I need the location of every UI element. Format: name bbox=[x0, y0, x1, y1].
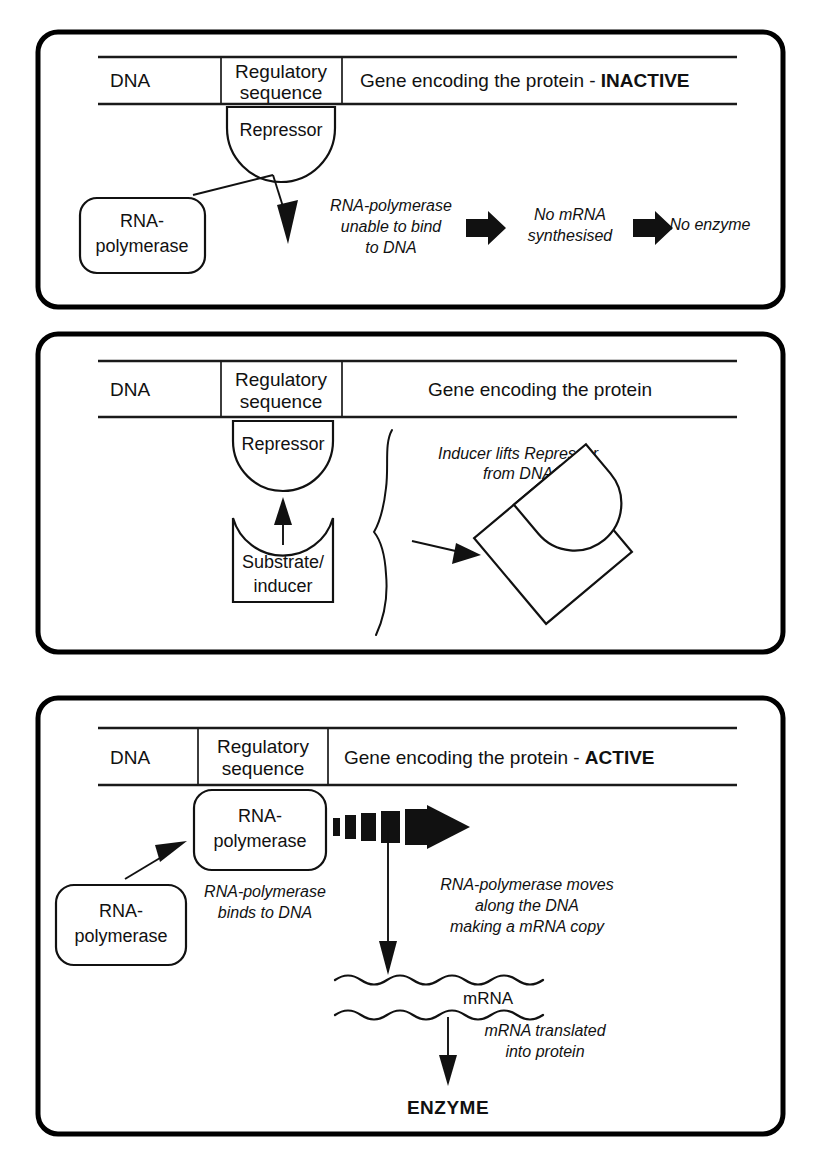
dna-segment-label: DNA bbox=[110, 70, 150, 91]
gene-segment-label-2: Gene encoding the protein bbox=[428, 379, 652, 400]
gene-segment-text-3: Gene encoding the protein - bbox=[344, 747, 585, 768]
panel-active: DNA Regulatory sequence Gene encoding th… bbox=[38, 698, 783, 1134]
regulatory-sequence-label-line2: sequence bbox=[240, 82, 322, 103]
gene-segment-label-3: Gene encoding the protein - ACTIVE bbox=[344, 747, 655, 768]
rna-polymerase-label-line1: RNA- bbox=[120, 211, 164, 231]
flow-note-line3: to DNA bbox=[365, 239, 417, 256]
repressor-label: Repressor bbox=[239, 120, 322, 140]
rna-polymerase-bound-box: RNA- polymerase bbox=[194, 790, 326, 870]
moves-note-line1: RNA-polymerase moves bbox=[440, 876, 613, 893]
enzyme-product-label: ENZYME bbox=[407, 1097, 489, 1118]
rna-polymerase-bound-rect bbox=[194, 790, 326, 870]
gene-regulation-diagram: DNA Regulatory sequence Gene encoding th… bbox=[0, 0, 817, 1165]
regulatory-sequence-label-3-line2: sequence bbox=[222, 758, 304, 779]
substrate-inducer-label-line2: inducer bbox=[253, 576, 312, 596]
translation-note-line2: into protein bbox=[505, 1043, 584, 1060]
dna-segment-label-2: DNA bbox=[110, 379, 150, 400]
rna-polymerase-box-inactive: RNA- polymerase bbox=[80, 198, 205, 273]
rna-polymerase-label-line2: polymerase bbox=[95, 236, 188, 256]
regulatory-sequence-label-line1: Regulatory bbox=[235, 61, 327, 82]
gene-state-emphasis-3: ACTIVE bbox=[585, 747, 655, 768]
dna-segment-label-3: DNA bbox=[110, 747, 150, 768]
regulatory-sequence-label-2-line1: Regulatory bbox=[235, 369, 327, 390]
substrate-inducer-label-line1: Substrate/ bbox=[242, 552, 324, 572]
translation-note-line1: mRNA translated bbox=[484, 1022, 606, 1039]
flow-note2-line1: No mRNA bbox=[534, 206, 606, 223]
flow-note-line2: unable to bind bbox=[341, 218, 443, 235]
rna-polymerase-free-label-line1: RNA- bbox=[99, 901, 143, 921]
rna-polymerase-free-rect bbox=[56, 885, 186, 965]
rna-polymerase-free-label-line2: polymerase bbox=[74, 926, 167, 946]
moves-note-line2: along the DNA bbox=[475, 897, 579, 914]
rna-polymerase-bound-label-line1: RNA- bbox=[238, 806, 282, 826]
binds-note-line2: binds to DNA bbox=[218, 904, 312, 921]
flow-note-line1: RNA-polymerase bbox=[330, 197, 452, 214]
gene-state-emphasis: INACTIVE bbox=[601, 70, 690, 91]
repressor-label-2: Repressor bbox=[241, 434, 324, 454]
panel-inactive: DNA Regulatory sequence Gene encoding th… bbox=[38, 32, 783, 307]
regulatory-sequence-label-3-line1: Regulatory bbox=[217, 736, 309, 757]
mrna-label: mRNA bbox=[463, 989, 514, 1008]
gene-segment-label: Gene encoding the protein - INACTIVE bbox=[360, 70, 690, 91]
regulatory-sequence-label-2-line2: sequence bbox=[240, 391, 322, 412]
moves-note-line3: making a mRNA copy bbox=[450, 918, 605, 935]
gene-segment-text: Gene encoding the protein - bbox=[360, 70, 601, 91]
binds-note-line1: RNA-polymerase bbox=[204, 883, 326, 900]
panel-induction: DNA Regulatory sequence Gene encoding th… bbox=[38, 334, 783, 652]
flow-note-no-enzyme: No enzyme bbox=[670, 216, 751, 233]
rna-polymerase-free-box: RNA- polymerase bbox=[56, 885, 186, 965]
flow-note2-line2: synthesised bbox=[528, 227, 614, 244]
rna-polymerase-bound-label-line2: polymerase bbox=[213, 831, 306, 851]
